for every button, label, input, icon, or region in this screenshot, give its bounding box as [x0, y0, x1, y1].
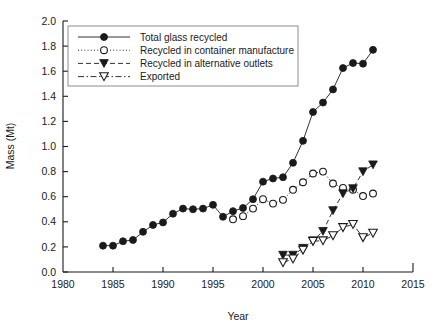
y-tick-label: 0.8 — [41, 165, 56, 177]
data-point-marker — [150, 221, 157, 228]
x-tick-label: 1985 — [101, 278, 125, 290]
y-tick-label: 1.6 — [41, 65, 56, 77]
series-line — [283, 165, 373, 255]
chart-container: 0.00.20.40.60.81.01.21.41.61.82.0 198019… — [0, 0, 435, 333]
data-point-marker — [359, 234, 368, 242]
data-point-marker — [370, 190, 377, 197]
data-point-marker — [100, 242, 107, 249]
x-tick-label: 2010 — [351, 278, 375, 290]
legend-swatch-marker — [101, 47, 108, 54]
data-point-marker — [329, 207, 338, 215]
series-2 — [279, 161, 378, 259]
x-tick-label: 2015 — [401, 278, 425, 290]
x-tick-label: 1980 — [51, 278, 75, 290]
data-point-marker — [220, 213, 227, 220]
data-point-marker — [170, 210, 177, 217]
data-point-marker — [330, 86, 337, 93]
data-point-marker — [250, 205, 257, 212]
data-point-marker — [329, 232, 338, 240]
y-tick-label: 1.4 — [41, 90, 56, 102]
data-point-marker — [240, 213, 247, 220]
data-point-marker — [349, 221, 358, 229]
data-point-marker — [180, 205, 187, 212]
data-point-marker — [110, 242, 117, 249]
legend-label: Exported — [140, 71, 180, 82]
data-point-marker — [290, 186, 297, 193]
data-point-marker — [279, 259, 288, 267]
data-point-marker — [319, 237, 328, 245]
data-point-marker — [360, 193, 367, 200]
x-tick-label: 1995 — [201, 278, 225, 290]
data-point-marker — [330, 180, 337, 187]
data-point-marker — [250, 196, 257, 203]
data-point-marker — [369, 229, 378, 237]
legend-label: Recycled in alternative outlets — [140, 58, 273, 69]
x-tick-label: 2000 — [251, 278, 275, 290]
data-point-marker — [359, 168, 368, 176]
data-point-marker — [210, 201, 217, 208]
legend-label: Total glass recycled — [140, 32, 227, 43]
data-point-marker — [310, 108, 317, 115]
data-point-marker — [350, 60, 357, 67]
y-tick-label: 0.4 — [41, 215, 56, 227]
data-point-marker — [369, 161, 378, 169]
data-point-marker — [230, 216, 237, 223]
data-point-marker — [130, 236, 137, 243]
y-tick-label: 1.0 — [41, 140, 56, 152]
legend-swatch-marker — [101, 34, 108, 41]
y-tick-label: 1.2 — [41, 115, 56, 127]
data-point-marker — [290, 159, 297, 166]
data-point-marker — [320, 99, 327, 106]
series-1 — [230, 168, 377, 222]
data-point-marker — [240, 204, 247, 211]
data-point-marker — [289, 255, 298, 263]
data-point-marker — [140, 228, 147, 235]
plot-area: 0.00.20.40.60.81.01.21.41.61.82.0 198019… — [41, 15, 424, 290]
data-point-marker — [120, 238, 127, 245]
legend-label: Recycled in container manufacture — [140, 45, 294, 56]
data-point-marker — [340, 65, 347, 72]
y-tick-label: 0.6 — [41, 190, 56, 202]
data-point-marker — [270, 175, 277, 182]
x-tick-label: 2005 — [301, 278, 325, 290]
y-tick-label: 1.8 — [41, 40, 56, 52]
data-point-marker — [270, 200, 277, 207]
data-point-marker — [320, 168, 327, 175]
data-point-marker — [310, 170, 317, 177]
data-point-marker — [300, 179, 307, 186]
data-point-marker — [200, 205, 207, 212]
data-point-marker — [160, 219, 167, 226]
data-point-marker — [360, 60, 367, 67]
y-axis-title: Mass (Mt) — [4, 123, 16, 170]
data-point-marker — [260, 196, 267, 203]
y-tick-label: 0.2 — [41, 241, 56, 253]
y-axis-ticks: 0.00.20.40.60.81.01.21.41.61.82.0 — [41, 15, 68, 278]
data-point-marker — [280, 174, 287, 181]
data-point-marker — [370, 46, 377, 53]
data-point-marker — [300, 137, 307, 144]
series-3 — [279, 221, 378, 267]
data-point-marker — [190, 206, 197, 213]
data-point-marker — [260, 178, 267, 185]
data-point-marker — [280, 196, 287, 203]
x-tick-label: 1990 — [151, 278, 175, 290]
x-axis-ticks: 19801985199019952000200520102015 — [51, 267, 425, 290]
line-chart: 0.00.20.40.60.81.01.21.41.61.82.0 198019… — [0, 0, 435, 333]
data-point-marker — [339, 190, 348, 198]
chart-legend: Total glass recycledRecycled in containe… — [68, 26, 298, 86]
x-axis-title: Year — [227, 310, 249, 322]
y-tick-label: 0.0 — [41, 266, 56, 278]
y-tick-label: 2.0 — [41, 15, 56, 27]
data-point-marker — [230, 208, 237, 215]
